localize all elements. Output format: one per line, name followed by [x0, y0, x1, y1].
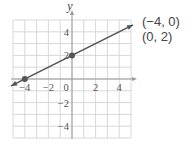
coordinate-plot: xy −4−202442−2−4 [0, 0, 140, 144]
point-list: (−4, 0) (0, 2) [142, 14, 180, 44]
x-tick-label: 2 [93, 82, 98, 93]
data-point [22, 76, 28, 82]
point-label-2: (0, 2) [142, 29, 180, 44]
x-tick-label: −2 [43, 82, 54, 93]
x-axis-label: x [139, 72, 140, 86]
data-point [69, 52, 75, 58]
y-tick-label: −4 [58, 121, 70, 132]
y-axis-label: y [66, 0, 73, 13]
axes: xy [11, 0, 140, 139]
x-tick-label: 4 [117, 82, 123, 93]
y-tick-label: 4 [64, 27, 70, 38]
y-tick-label: −2 [58, 98, 69, 109]
point-label-1: (−4, 0) [142, 14, 180, 29]
x-tick-label: −4 [19, 82, 31, 93]
x-tick-label: 0 [63, 82, 68, 93]
